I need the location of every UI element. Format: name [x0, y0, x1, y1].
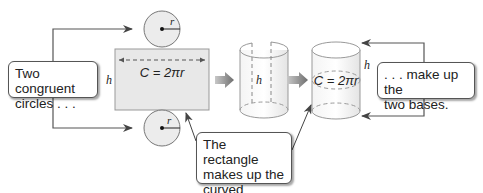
final-cylinder: C = 2πr h	[312, 42, 370, 119]
radius-label-bottom: r	[167, 114, 172, 126]
unrolled-rectangle: C = 2πr h	[106, 49, 209, 110]
cylinder-formula: C = 2πr	[314, 73, 359, 88]
callout-two-bases: . . . make up the two bases.	[377, 62, 475, 99]
callout-two-bases-line2: two bases.	[384, 97, 468, 112]
transform-arrow-2	[287, 72, 308, 88]
bottom-circle: r	[144, 110, 180, 146]
callout-two-circles-line2: circles . . .	[15, 96, 91, 111]
transform-arrow-1	[215, 72, 234, 88]
rolling-height-label: h	[256, 73, 262, 87]
callout-two-bases-line1: . . . make up the	[384, 67, 468, 97]
rectangle-height-label: h	[106, 73, 112, 87]
radius-label-top: r	[170, 15, 175, 27]
callout-two-circles-line1: Two congruent	[15, 66, 91, 96]
callout-rectangle-line1: The rectangle	[203, 137, 285, 167]
callout-rectangle-line3: curved surface.	[203, 182, 285, 193]
top-circle: r	[144, 11, 180, 47]
callout-rectangle: The rectangle makes up the curved surfac…	[196, 132, 292, 184]
callout-rectangle-line2: makes up the	[203, 167, 285, 182]
rectangle-formula: C = 2πr	[140, 65, 185, 80]
cylinder-height-label: h	[364, 58, 370, 72]
callout-two-circles: Two congruent circles . . .	[8, 61, 98, 98]
